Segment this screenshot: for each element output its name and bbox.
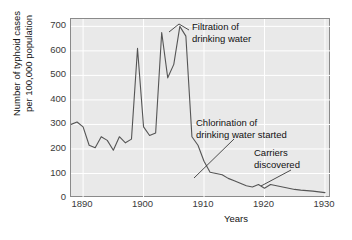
- y-axis-title-line1: Number of typhoid cases: [11, 0, 23, 149]
- y-axis-tick-600: 600: [36, 45, 66, 55]
- x-axis-title: Years: [0, 213, 352, 224]
- data-line-series: [71, 19, 331, 198]
- x-axis-tick-1910: 1910: [192, 199, 213, 209]
- annotation-carriers-line1: Carriers: [254, 147, 300, 159]
- annotation-chlorination: Chlorination of drinking water started: [196, 117, 287, 140]
- annotation-filtration-line1: Filtration of: [192, 21, 251, 33]
- y-axis-title-line2: per 100,000 population: [22, 0, 34, 149]
- y-axis-tick-100: 100: [36, 168, 66, 178]
- y-axis-tick-500: 500: [36, 69, 66, 79]
- annotation-filtration-line2: drinking water: [192, 33, 251, 45]
- annotation-chlorination-line2: drinking water started: [196, 129, 287, 141]
- annotation-chlorination-line1: Chlorination of: [196, 117, 287, 129]
- x-axis-tick-1900: 1900: [132, 199, 153, 209]
- annotation-filtration: Filtration of drinking water: [192, 21, 251, 44]
- x-axis-tick-1890: 1890: [72, 199, 93, 209]
- annotation-carriers: Carriers discovered: [254, 147, 300, 170]
- annotation-carriers-line2: discovered: [254, 159, 300, 171]
- x-axis-tick-1930: 1930: [313, 199, 334, 209]
- x-axis-tick-1920: 1920: [253, 199, 274, 209]
- typhoid-cases-line-chart: 0100200300400500600700 Number of typhoid…: [0, 0, 352, 240]
- plot-area: [70, 18, 330, 197]
- y-axis-tick-700: 700: [36, 20, 66, 30]
- y-axis-tick-300: 300: [36, 118, 66, 128]
- y-axis-tick-200: 200: [36, 143, 66, 153]
- x-axis-tick-labels: 18901900191019201930: [0, 199, 352, 213]
- y-axis-title: Number of typhoid cases per 100,000 popu…: [11, 0, 34, 149]
- y-axis-tick-400: 400: [36, 94, 66, 104]
